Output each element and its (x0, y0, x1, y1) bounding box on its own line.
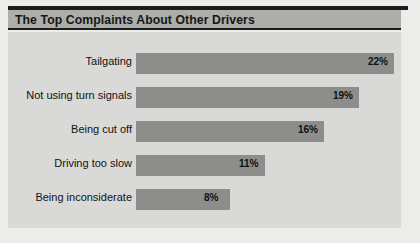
bar-value-label: 8% (204, 192, 218, 203)
category-label: Tailgating (8, 55, 132, 67)
bar-row: Tailgating22% (8, 53, 401, 74)
category-label: Being inconsiderate (8, 191, 132, 203)
page-title: The Top Complaints About Other Drivers (15, 12, 255, 27)
bar-rows: Tailgating22%Not using turn signals19%Be… (8, 32, 401, 228)
bar (136, 87, 359, 108)
bar-row: Being inconsiderate8% (8, 189, 401, 210)
bar-row: Being cut off16% (8, 121, 401, 142)
bar-row: Driving too slow11% (8, 155, 401, 176)
category-label: Not using turn signals (8, 89, 132, 101)
plot-area: Tailgating22%Not using turn signals19%Be… (8, 32, 401, 228)
category-label: Being cut off (8, 123, 132, 135)
category-label: Driving too slow (8, 157, 132, 169)
bar-value-label: 19% (333, 90, 353, 101)
bar (136, 121, 324, 142)
title-banner: The Top Complaints About Other Drivers (8, 10, 401, 30)
bar-value-label: 11% (239, 158, 258, 169)
bar-value-label: 16% (298, 124, 318, 135)
bar-value-label: 22% (368, 56, 388, 67)
bar-row: Not using turn signals19% (8, 87, 401, 108)
chart-figure: The Top Complaints About Other Drivers T… (0, 0, 420, 243)
bar (136, 53, 394, 74)
